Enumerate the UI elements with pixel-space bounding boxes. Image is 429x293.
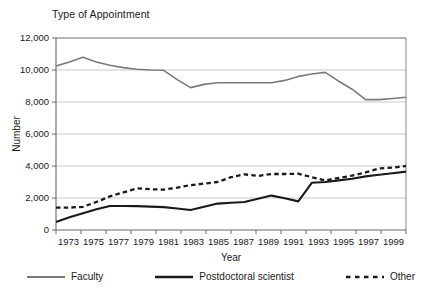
chart-container: Type of Appointment 12,00010,0008,0006,0… — [0, 0, 429, 293]
y-axis-tick-label: 4,000 — [25, 160, 49, 171]
y-axis-tick-label: 12,000 — [20, 32, 49, 43]
x-axis-tick-label: 1997 — [358, 236, 379, 247]
x-axis-group: 1973197519771979198119831985198719891991… — [56, 230, 406, 247]
y-axis-tick-label: 6,000 — [25, 128, 49, 139]
chart-legend: FacultyPostdoctoral scientistOther — [0, 266, 429, 288]
gridlines-group — [56, 38, 406, 198]
x-axis-tick-label: 1973 — [58, 236, 79, 247]
series-group — [56, 57, 406, 222]
x-axis-tick-label: 1993 — [308, 236, 329, 247]
legend-label: Postdoctoral scientist — [199, 272, 294, 282]
x-axis-tick-label: 1977 — [108, 236, 129, 247]
y-axis-group: 12,00010,0008,0006,0004,0002,0000 — [20, 32, 56, 235]
legend-swatch-icon — [26, 272, 66, 282]
x-axis-tick-label: 1987 — [233, 236, 254, 247]
x-axis-tick-label: 1979 — [133, 236, 154, 247]
legend-swatch-icon — [345, 272, 385, 282]
series-line-faculty — [56, 57, 406, 99]
x-axis-tick-label: 1995 — [333, 236, 354, 247]
x-axis-tick-label: 1999 — [383, 236, 404, 247]
x-axis-tick-label: 1983 — [183, 236, 204, 247]
legend-item-postdoctoral-scientist[interactable]: Postdoctoral scientist — [154, 272, 294, 282]
legend-swatch-icon — [154, 272, 194, 282]
x-axis-tick-label: 1991 — [283, 236, 304, 247]
x-axis-tick-label: 1981 — [158, 236, 179, 247]
x-axis-title: Year — [221, 252, 242, 263]
x-axis-tick-label: 1985 — [208, 236, 229, 247]
chart-plot-area: 12,00010,0008,0006,0004,0002,0000 197319… — [0, 0, 429, 293]
x-axis-tick-label: 1975 — [83, 236, 104, 247]
legend-item-other[interactable]: Other — [345, 272, 415, 282]
y-axis-tick-label: 0 — [44, 224, 49, 235]
y-axis-tick-label: 2,000 — [25, 192, 49, 203]
y-axis-tick-label: 8,000 — [25, 96, 49, 107]
x-axis-tick-label: 1989 — [258, 236, 279, 247]
y-axis-tick-label: 10,000 — [20, 64, 49, 75]
series-line-other — [56, 166, 406, 208]
legend-label: Faculty — [71, 272, 103, 282]
legend-label: Other — [390, 272, 415, 282]
legend-item-faculty[interactable]: Faculty — [26, 272, 103, 282]
y-axis-title: Number — [11, 116, 22, 152]
